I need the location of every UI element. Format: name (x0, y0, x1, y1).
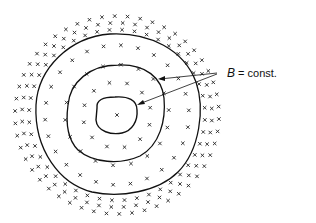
diagram: B = const. (0, 0, 316, 223)
field-contour-diagram (0, 0, 316, 223)
b-const-label: B = const. (227, 66, 277, 80)
arrow-head-1 (158, 76, 165, 81)
field-into-page-marks (13, 14, 220, 215)
const-text: = const. (235, 67, 277, 79)
b-symbol: B (227, 66, 235, 80)
arrow-line-1 (160, 73, 217, 79)
arrow-head-2 (137, 100, 145, 105)
